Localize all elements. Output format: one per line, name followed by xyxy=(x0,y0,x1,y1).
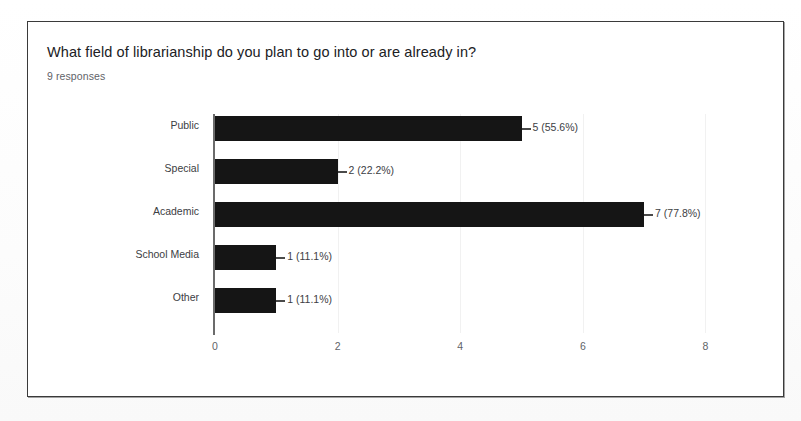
category-label: Public xyxy=(39,119,199,131)
bar-value-label: 2 (22.2%) xyxy=(349,164,395,176)
leader-line xyxy=(338,171,347,173)
leader-line xyxy=(276,300,285,302)
x-axis-tick-label: 2 xyxy=(335,340,341,352)
bar-row[interactable]: School Media1 (11.1%) xyxy=(28,243,785,286)
x-axis-tick-label: 8 xyxy=(702,340,708,352)
bar-chart-plot: Public5 (55.6%)Special2 (22.2%)Academic7… xyxy=(28,22,785,398)
bar[interactable] xyxy=(215,159,338,184)
bar[interactable] xyxy=(215,202,644,227)
bar-row[interactable]: Public5 (55.6%) xyxy=(28,114,785,157)
bar[interactable] xyxy=(215,245,276,270)
category-label: Other xyxy=(39,291,199,303)
leader-line xyxy=(644,214,653,216)
bar-row[interactable]: Special2 (22.2%) xyxy=(28,157,785,200)
bar-row[interactable]: Academic7 (77.8%) xyxy=(28,200,785,243)
x-axis-tick-label: 0 xyxy=(212,340,218,352)
leader-line xyxy=(276,257,285,259)
chart-card: What field of librarianship do you plan … xyxy=(27,21,784,397)
category-label: School Media xyxy=(39,248,199,260)
x-axis-tick-label: 4 xyxy=(457,340,463,352)
bar-value-label: 1 (11.1%) xyxy=(287,293,332,305)
category-label: Academic xyxy=(39,205,199,217)
bar-row[interactable]: Other1 (11.1%) xyxy=(28,286,785,329)
bar[interactable] xyxy=(215,288,276,313)
category-label: Special xyxy=(39,162,199,174)
leader-line xyxy=(522,128,531,130)
x-axis-tick-label: 6 xyxy=(580,340,586,352)
bar-value-label: 7 (77.8%) xyxy=(655,207,701,219)
bar-value-label: 5 (55.6%) xyxy=(533,121,579,133)
bar[interactable] xyxy=(215,116,522,141)
bar-value-label: 1 (11.1%) xyxy=(287,250,332,262)
